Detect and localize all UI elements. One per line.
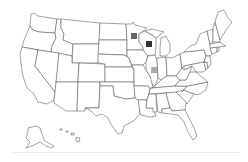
marker-wi[interactable]: Wisconsin [146, 41, 152, 47]
us-states-svg: MinnesotaWisconsinIllinois [0, 0, 248, 162]
state-hawaii-maui[interactable] [71, 133, 74, 135]
state-montana[interactable] [61, 19, 100, 44]
state-outlines [20, 10, 232, 148]
state-south-dakota[interactable] [98, 40, 127, 56]
marker-il[interactable]: Illinois [151, 67, 157, 73]
state-rhode-island[interactable] [217, 47, 219, 52]
us-map: MinnesotaWisconsinIllinois [0, 0, 248, 162]
state-washington[interactable] [30, 13, 57, 33]
state-colorado[interactable] [78, 63, 105, 82]
state-indiana[interactable] [157, 57, 167, 80]
state-wyoming[interactable] [72, 44, 99, 63]
state-massachusetts[interactable] [210, 42, 226, 48]
state-florida[interactable] [162, 108, 197, 140]
state-hawaii-kauai[interactable] [60, 129, 62, 130]
state-new-mexico[interactable] [77, 82, 100, 111]
state-kansas[interactable] [105, 67, 134, 82]
state-hawaii-oahu[interactable] [66, 131, 68, 132]
state-north-dakota[interactable] [99, 23, 127, 40]
state-michigan-lower[interactable] [160, 36, 170, 56]
state-arizona[interactable] [54, 82, 78, 111]
state-hawaii-big-island[interactable] [76, 137, 80, 142]
state-alaska[interactable] [26, 126, 54, 148]
marker-mn[interactable]: Minnesota [131, 33, 137, 39]
footer-divider [12, 152, 240, 153]
